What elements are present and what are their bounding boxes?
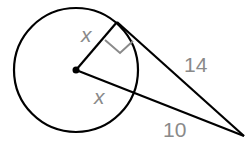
circle-tangent-diagram: x x 14 10 [0, 0, 246, 153]
right-angle-mark [105, 40, 133, 53]
label-radius-x-bottom: x [93, 85, 106, 108]
label-radius-x-top: x [80, 23, 93, 46]
label-tangent-length: 14 [184, 53, 208, 76]
label-secant-external-length: 10 [163, 118, 186, 141]
center-point [73, 67, 80, 74]
